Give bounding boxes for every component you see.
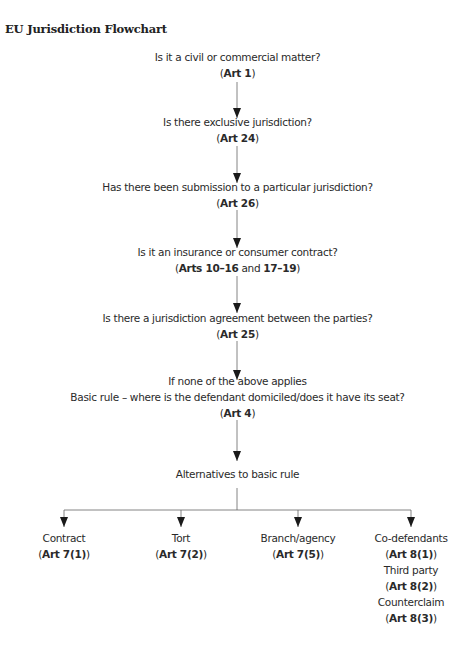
step-civil-commercial: Is it a civil or commercial matter? (Art… bbox=[0, 49, 475, 81]
alt-ref: (Art 7(2)) bbox=[126, 546, 236, 562]
step-jurisdiction-agreement: Is there a jurisdiction agreement betwee… bbox=[0, 310, 475, 342]
step-question: Is there a jurisdiction agreement betwee… bbox=[0, 310, 475, 326]
alternatives-heading: Alternatives to basic rule bbox=[0, 466, 475, 482]
alt-ref: (Art 8(1)) bbox=[356, 546, 466, 562]
alt-label: Counterclaim bbox=[356, 594, 466, 610]
alt-tort: Tort (Art 7(2)) bbox=[126, 530, 236, 562]
step-exclusive-jurisdiction: Is there exclusive jurisdiction? (Art 24… bbox=[0, 114, 475, 146]
step-submission: Has there been submission to a particula… bbox=[0, 179, 475, 211]
alt-contract: Contract (Art 7(1)) bbox=[9, 530, 119, 562]
step-ref: (Arts 10–16 and 17–19) bbox=[0, 260, 475, 276]
step-ref: (Art 24) bbox=[0, 130, 475, 146]
alt-label: Tort bbox=[126, 530, 236, 546]
step-question: Is it an insurance or consumer contract? bbox=[0, 244, 475, 260]
alt-ref: (Art 8(2)) bbox=[356, 578, 466, 594]
step-question: Is it a civil or commercial matter? bbox=[0, 49, 475, 65]
alt-label: Third party bbox=[356, 562, 466, 578]
step-ref: (Art 4) bbox=[0, 405, 475, 421]
alt-branch-agency: Branch/agency (Art 7(5)) bbox=[243, 530, 353, 562]
alt-label: Contract bbox=[9, 530, 119, 546]
alt-multiple-parties: Co-defendants (Art 8(1)) Third party (Ar… bbox=[356, 530, 466, 626]
step-ref: (Art 25) bbox=[0, 326, 475, 342]
step-ref: (Art 26) bbox=[0, 195, 475, 211]
alt-ref: (Art 8(3)) bbox=[356, 610, 466, 626]
alt-label: Co-defendants bbox=[356, 530, 466, 546]
step-question: Has there been submission to a particula… bbox=[0, 179, 475, 195]
step-basic-rule: If none of the above applies Basic rule … bbox=[0, 373, 475, 421]
step-insurance-consumer: Is it an insurance or consumer contract?… bbox=[0, 244, 475, 276]
step-question: Is there exclusive jurisdiction? bbox=[0, 114, 475, 130]
alt-ref: (Art 7(5)) bbox=[243, 546, 353, 562]
alt-ref: (Art 7(1)) bbox=[9, 546, 119, 562]
step-ref: (Art 1) bbox=[0, 65, 475, 81]
alt-label: Branch/agency bbox=[243, 530, 353, 546]
step-question: Basic rule – where is the defendant domi… bbox=[0, 389, 475, 405]
step-preamble: If none of the above applies bbox=[0, 373, 475, 389]
